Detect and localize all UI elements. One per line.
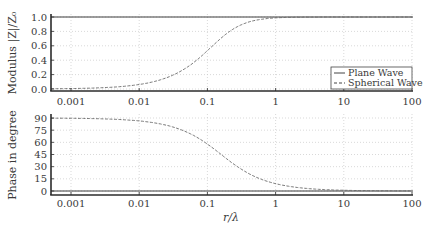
phase-y-axis-label: Phase in degree (6, 110, 19, 200)
legend: Plane Wave Spherical Wave (331, 67, 423, 89)
legend-item-spherical-wave: Spherical Wave (348, 77, 423, 88)
modulus-panel: 0.00.20.40.60.81.0 0.0010.010.1110100 Mo… (6, 11, 422, 107)
x-tick-label: 1 (272, 96, 278, 107)
y-tick-label: 90 (34, 113, 47, 124)
y-tick-label: 30 (34, 161, 47, 172)
x-tick-label: 100 (402, 198, 421, 209)
x-tick-label: 10 (337, 198, 350, 209)
y-tick-label: 45 (34, 149, 47, 160)
y-tick-label: 0.4 (31, 55, 47, 66)
x-tick-label: 0.1 (199, 198, 215, 209)
x-tick-label: 0.1 (199, 96, 215, 107)
x-tick-label: 0.01 (128, 198, 150, 209)
y-tick-label: 15 (34, 173, 47, 184)
y-tick-label: 1.0 (31, 12, 47, 23)
y-tick-label: 60 (34, 137, 47, 148)
chart: 0.00.20.40.60.81.0 0.0010.010.1110100 Mo… (0, 0, 436, 234)
x-tick-label: 0.001 (57, 198, 86, 209)
y-tick-label: 75 (34, 125, 47, 136)
phase-panel: 0153045607590 0.0010.010.1110100 Phase i… (6, 110, 422, 209)
x-tick-label: 100 (402, 96, 421, 107)
y-tick-label: 0.0 (31, 84, 47, 95)
modulus-y-axis-label: Modulus |Z|/Z₀ (6, 11, 20, 94)
x-axis-label: r/λ (223, 211, 239, 224)
phase-grid (51, 114, 413, 195)
x-tick-label: 0.01 (128, 96, 150, 107)
x-tick-label: 10 (337, 96, 350, 107)
y-tick-label: 0.8 (31, 26, 47, 37)
x-tick-label: 1 (272, 198, 278, 209)
y-tick-label: 0 (41, 186, 47, 197)
y-tick-label: 0.6 (31, 40, 47, 51)
x-tick-label: 0.001 (57, 96, 86, 107)
y-tick-label: 0.2 (31, 69, 47, 80)
